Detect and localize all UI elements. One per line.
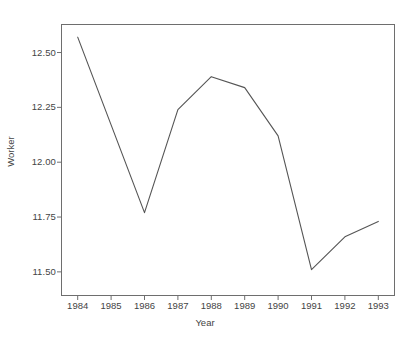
x-tick-label: 1993 [358, 300, 398, 311]
y-tick-label: 12.25 [4, 101, 56, 112]
y-tick-label: 11.50 [4, 266, 56, 277]
y-tick-label: 12.50 [4, 47, 56, 58]
y-tick-label: 11.75 [4, 211, 56, 222]
y-axis-title: Worker [5, 117, 16, 187]
line-chart: 11.5011.7512.0012.2512.50 19841985198619… [0, 0, 410, 342]
plot-area-frame [61, 24, 395, 296]
x-axis-title: Year [0, 317, 410, 328]
